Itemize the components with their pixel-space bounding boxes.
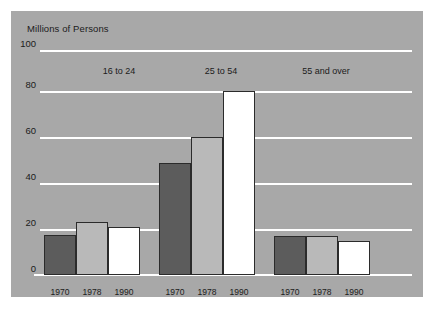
bar-25-to-54-1970 (159, 163, 191, 275)
ytick-label-100: 100 (14, 38, 36, 49)
ytick-label-40: 40 (14, 171, 36, 182)
chart-axis-title: Millions of Persons (27, 23, 109, 34)
xtick-55-and-over-1970: 1970 (273, 287, 307, 297)
xtick-25-to-54-1990: 1990 (222, 287, 256, 297)
chart-figure: Millions of Persons 100 80 60 40 20 0 16… (0, 0, 437, 311)
xtick-16-to-24-1990: 1990 (107, 287, 141, 297)
xtick-16-to-24-1978: 1978 (75, 287, 109, 297)
chart-plot-panel: Millions of Persons 100 80 60 40 20 0 16… (11, 11, 423, 297)
xtick-25-to-54-1978: 1978 (190, 287, 224, 297)
bar-55-and-over-1970 (274, 236, 306, 275)
ytick-label-20: 20 (14, 217, 36, 228)
bar-55-and-over-1978 (306, 236, 338, 275)
bar-16-to-24-1990 (108, 227, 140, 275)
ytick-label-0: 0 (14, 263, 36, 274)
ytick-label-60: 60 (14, 125, 36, 136)
xtick-55-and-over-1990: 1990 (337, 287, 371, 297)
bar-16-to-24-1978 (76, 222, 108, 275)
bar-25-to-54-1990 (223, 91, 255, 275)
xtick-55-and-over-1978: 1978 (305, 287, 339, 297)
ytick-label-80: 80 (14, 79, 36, 90)
bar-55-and-over-1990 (338, 241, 370, 275)
bar-25-to-54-1978 (191, 137, 223, 275)
xtick-25-to-54-1970: 1970 (158, 287, 192, 297)
bar-16-to-24-1970 (44, 235, 76, 275)
group-header-55-and-over: 55 and over (261, 66, 391, 76)
gridline-100 (40, 50, 412, 52)
xtick-16-to-24-1970: 1970 (43, 287, 77, 297)
